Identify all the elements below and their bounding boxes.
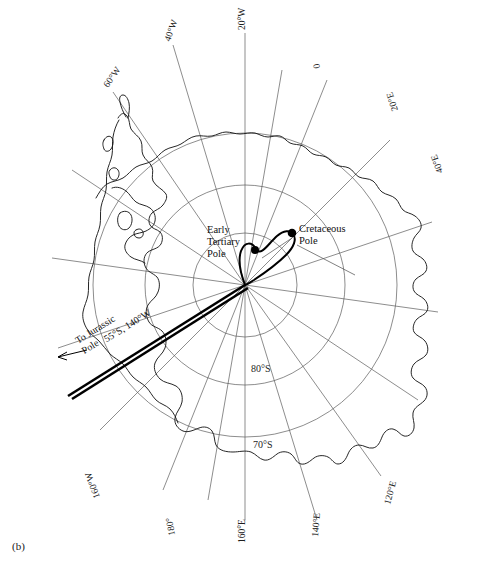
- antarctica-apw-figure: 20°W 40°W 60°W 0 20°E 40°E 120°E 140°E 1…: [0, 0, 486, 570]
- panel-caption: (b): [12, 540, 25, 552]
- label-lat-80S: 80°S: [251, 363, 271, 374]
- meridian-140E: [245, 285, 317, 520]
- meridian-80E: [245, 285, 438, 312]
- early-tertiary-pole-label-line1: Early: [207, 224, 230, 235]
- label-lon-160W: 160°W: [83, 471, 102, 500]
- coastline-island-3: [118, 211, 132, 229]
- label-lon-40E: 40°E: [429, 153, 445, 175]
- coastline-island-1: [103, 136, 113, 151]
- label-lon-60W: 60°W: [101, 65, 122, 89]
- meridian-180: [208, 285, 245, 500]
- label-lat-70S: 70°S: [253, 439, 273, 450]
- cretaceous-pole-label: Cretaceous Pole: [299, 223, 346, 246]
- label-lon-140E: 140°E: [310, 512, 322, 537]
- early-tertiary-pole-label-line3: Pole: [207, 248, 226, 259]
- label-lon-20E: 20°E: [384, 91, 399, 112]
- early-tertiary-pole-label-line2: Tertiary: [207, 236, 241, 247]
- label-lon-20W: 20°W: [237, 8, 247, 30]
- cretaceous-pole-label-line1: Cretaceous: [299, 223, 346, 234]
- meridian-100W: [52, 258, 245, 285]
- label-lon-160E: 160°E: [237, 519, 247, 543]
- cretaceous-pole-dot: [288, 229, 297, 238]
- meridian-140W: [100, 285, 245, 430]
- longitude-label-group: 20°W 40°W 60°W 0 20°E 40°E 120°E 140°E 1…: [83, 8, 445, 543]
- label-lon-120E: 120°E: [382, 480, 398, 506]
- label-lon-180: 180°: [164, 517, 177, 537]
- meridian-0: [245, 70, 282, 285]
- meridian-100E: [245, 285, 418, 400]
- apw-loop-outer: [240, 231, 293, 285]
- coastline-main: [96, 114, 428, 465]
- label-lon-40W: 40°W: [162, 18, 179, 42]
- leader-cretaceous: [297, 245, 355, 275]
- meridian-40E: [245, 140, 390, 285]
- meridian-group: [52, 33, 438, 520]
- cretaceous-pole-label-line2: Pole: [299, 235, 318, 246]
- polar-projection-map: 20°W 40°W 60°W 0 20°E 40°E 120°E 140°E 1…: [0, 0, 486, 570]
- early-tertiary-pole-dot: [251, 246, 259, 254]
- label-lon-0: 0: [311, 63, 322, 70]
- coastline-island-2: [109, 168, 119, 180]
